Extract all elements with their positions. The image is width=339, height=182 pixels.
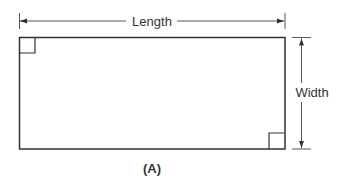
length-dimension: Length — [20, 13, 286, 29]
length-label: Length — [132, 14, 172, 29]
rectangle-shape — [20, 38, 286, 150]
width-label: Width — [295, 85, 328, 100]
right-angle-marker-top-left — [20, 38, 36, 54]
rectangle-diagram: Length Width (A) — [0, 0, 339, 182]
right-angle-marker-bottom-right — [269, 133, 285, 149]
width-dimension: Width — [288, 38, 336, 150]
figure-caption: (A) — [143, 161, 161, 176]
